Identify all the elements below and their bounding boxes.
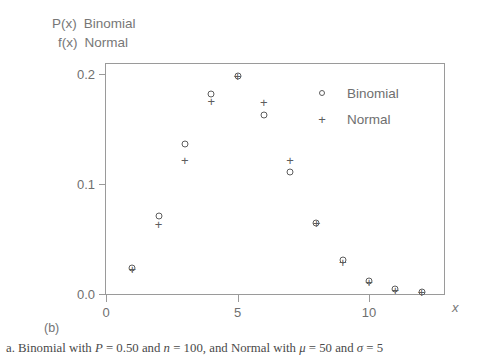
x-axis-tick-label: 5 xyxy=(234,305,241,320)
y-axis-tick-label: 0.2 xyxy=(77,67,95,82)
caption-text: = 5 xyxy=(363,341,383,355)
px-distribution-name: Binomial xyxy=(77,16,136,31)
caption-math-symbol: P xyxy=(95,341,103,355)
legend-item-binomial: Binomial xyxy=(311,80,399,106)
fx-distribution-name: Normal xyxy=(78,35,129,50)
x-axis-title: x xyxy=(452,300,459,315)
caption-text: a. Binomial with xyxy=(6,341,95,355)
y-axis-tick xyxy=(99,184,106,185)
circle-marker-icon xyxy=(311,90,333,96)
x-axis-tick xyxy=(369,294,370,302)
x-axis-tick xyxy=(106,294,107,302)
figure-caption: a. Binomial with P = 0.50 and n = 100, a… xyxy=(6,341,383,356)
fx-symbol: f(x) xyxy=(58,35,78,50)
legend-label-binomial: Binomial xyxy=(333,86,399,101)
axis-name-block: P(x)Binomial f(x)Normal xyxy=(52,14,136,52)
caption-text: = 0.50 and xyxy=(103,341,164,355)
plus-marker-icon: + xyxy=(311,113,333,126)
y-axis-tick xyxy=(99,294,106,295)
x-axis-tick xyxy=(238,294,239,302)
subfigure-label: (b) xyxy=(44,321,59,335)
caption-text: = 50 and xyxy=(306,341,357,355)
x-axis-tick-label: 10 xyxy=(362,305,376,320)
px-symbol: P(x) xyxy=(52,16,77,31)
y-axis-tick xyxy=(99,74,106,75)
y-axis-tick-label: 0.0 xyxy=(77,287,95,302)
legend-label-normal: Normal xyxy=(333,112,391,127)
axis-name-row-px: P(x)Binomial xyxy=(52,14,136,33)
legend-item-normal: + Normal xyxy=(311,106,399,132)
x-axis-tick-label: 0 xyxy=(102,305,109,320)
axis-name-row-fx: f(x)Normal xyxy=(52,33,136,52)
y-axis-tick-label: 0.1 xyxy=(77,177,95,192)
chart-legend: Binomial + Normal xyxy=(311,80,399,132)
plot-frame: ++++++++++++ Binomial + Normal 0.00.10.2… xyxy=(105,63,445,295)
caption-text: = 100, and Normal with xyxy=(170,341,299,355)
